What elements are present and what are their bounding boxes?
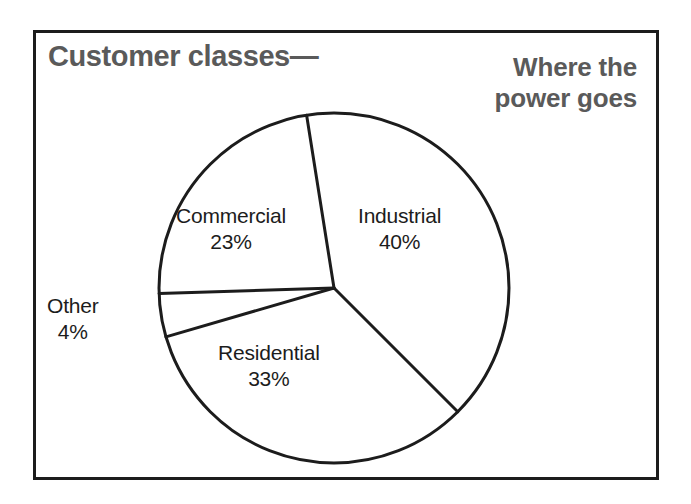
page-title-where-the-power-goes: Where the power goes [495,52,637,113]
pie-label-residential-value: 33% [218,366,320,392]
pie-label-other: Other 4% [47,293,99,344]
pie-label-commercial-name: Commercial [176,204,286,227]
pie-label-commercial-value: 23% [176,229,286,255]
pie-label-residential: Residential 33% [218,340,320,391]
title-right-line-1: Where the [513,52,637,82]
pie-label-commercial: Commercial 23% [176,203,286,254]
chart-figure: Customer classes— Where the power goes C… [0,0,691,504]
pie-label-industrial: Industrial 40% [358,203,441,254]
page-title-customer-classes: Customer classes— [48,41,318,73]
pie-label-other-value: 4% [47,319,99,345]
title-right-line-2: power goes [495,83,637,113]
pie-label-industrial-name: Industrial [358,204,441,227]
pie-label-residential-name: Residential [218,341,320,364]
pie-label-other-name: Other [47,294,99,317]
pie-label-industrial-value: 40% [358,229,441,255]
